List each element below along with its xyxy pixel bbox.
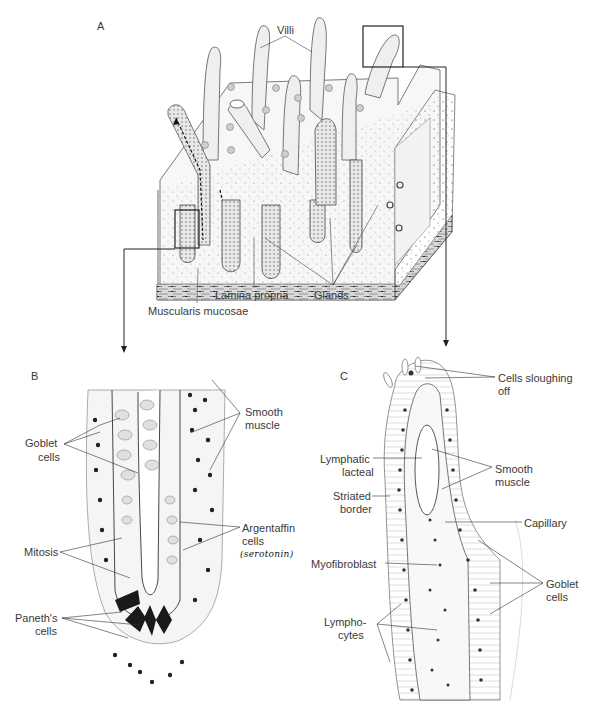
handwritten-serotonin-note: (serotonin): [240, 549, 294, 559]
panel-c-letter: C: [340, 370, 348, 382]
label-argentaffin-2: cells: [242, 535, 264, 547]
panel-b: [60, 380, 240, 684]
panel-c: [372, 357, 543, 700]
lymphatic-lacteal: [415, 425, 439, 515]
label-villi: Villi: [277, 24, 294, 36]
histology-diagram: [0, 0, 601, 716]
label-smooth-muscle-b-2: muscle: [245, 419, 280, 431]
label-lymphatic-1: Lymphatic: [320, 453, 370, 465]
label-lymphatic-2: lacteal: [342, 466, 374, 478]
label-capillary: Capillary: [524, 517, 567, 529]
label-goblet-cells-b-2: cells: [38, 451, 60, 463]
label-paneth-2: cells: [35, 625, 57, 637]
label-myofibroblast: Myofibroblast: [311, 558, 376, 570]
label-sloughing-2: off: [498, 385, 510, 397]
label-lamina-propria: Lamina propria: [215, 289, 288, 301]
label-goblet-cells-b-1: Goblet: [25, 437, 57, 449]
label-mitosis: Mitosis: [24, 546, 58, 558]
label-striated-2: border: [340, 503, 372, 515]
label-lymphocytes-1: Lympho-: [324, 616, 366, 628]
label-argentaffin-1: Argentaffin: [242, 522, 295, 534]
label-goblet-cells-c-1: Goblet: [546, 578, 578, 590]
panel-a: [121, 18, 455, 353]
label-goblet-cells-c-2: cells: [546, 591, 568, 603]
label-glands: Glands: [314, 289, 349, 301]
label-smooth-muscle-c-2: muscle: [495, 476, 530, 488]
label-paneth-1: Paneth's: [15, 612, 57, 624]
label-striated-1: Striated: [333, 490, 371, 502]
panel-a-letter: A: [97, 20, 104, 32]
label-lymphocytes-2: cytes: [338, 629, 364, 641]
label-smooth-muscle-b-1: Smooth: [245, 406, 283, 418]
label-smooth-muscle-c-1: Smooth: [495, 463, 533, 475]
label-sloughing-1: Cells sloughing: [498, 372, 573, 384]
label-muscularis-mucosae: Muscularis mucosae: [148, 305, 248, 317]
panel-b-letter: B: [31, 370, 38, 382]
